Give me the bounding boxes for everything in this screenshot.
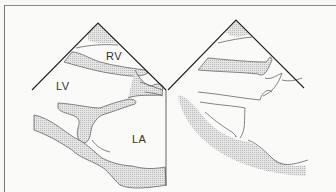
right-echo-panel xyxy=(168,20,308,176)
label-la: LA xyxy=(132,133,146,145)
rv-wall xyxy=(88,23,118,43)
label-lv: LV xyxy=(56,80,70,92)
posterior-wall xyxy=(34,115,166,188)
label-rv: RV xyxy=(106,50,122,62)
left-echo-panel xyxy=(32,23,166,188)
